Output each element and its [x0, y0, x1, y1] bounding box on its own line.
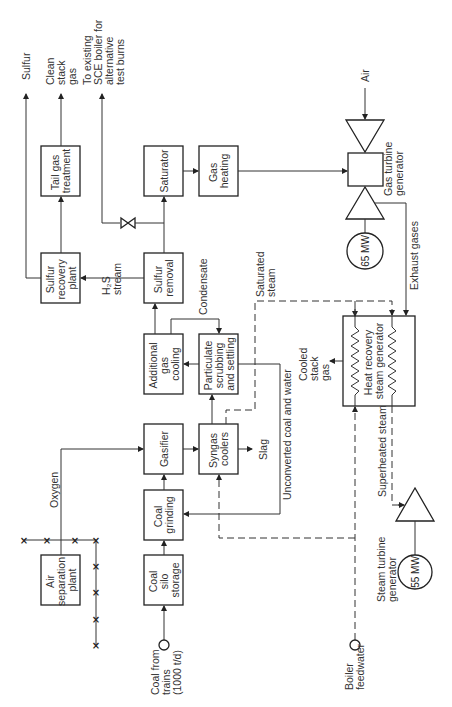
svg-text:×: ×	[92, 561, 100, 572]
box-heat-recovery-steam-generator: Heat recovery steam generator	[343, 316, 415, 406]
label-boiler-feedwater: Boiler feedwater	[343, 643, 366, 690]
box-gas-heating: Gas heating	[199, 146, 238, 196]
label-air: Air	[359, 69, 371, 82]
box-coal-silo-storage: Coal silo storage	[144, 555, 183, 605]
box-sulfur-removal: Sulfur removal	[144, 253, 183, 303]
box-saturator: Saturator	[144, 146, 183, 196]
svg-text:Sulfur removal: Sulfur removal	[152, 259, 175, 296]
svg-text:Particulate scrubbing: Particulate scrubbing and settling	[202, 337, 236, 391]
box-air-separation-plant: Air separation plant	[41, 554, 80, 606]
gas-turbine-generator: 65 MW	[346, 120, 384, 269]
label-clean-stack-gas: Clean stack gas	[44, 55, 78, 85]
label-oxygen: Oxygen	[48, 472, 60, 508]
svg-text:Gasifier: Gasifier	[158, 430, 170, 467]
svg-text:×: ×	[71, 535, 79, 546]
label-sce-boiler: To existing SCE boiler for alternative t…	[81, 17, 126, 85]
svg-text:55 MW: 55 MW	[410, 556, 421, 588]
label-steam-turbine-generator: Steam turbine generator	[375, 534, 398, 602]
svg-text:×: ×	[92, 640, 100, 651]
svg-text:×: ×	[20, 535, 28, 546]
svg-text:Saturator: Saturator	[158, 149, 170, 193]
valve-icon	[121, 218, 135, 228]
box-gasifier: Gasifier	[144, 424, 183, 474]
box-syngas-coolers: Syngas coolers	[199, 424, 238, 474]
svg-text:Syngas coolers: Syngas coolers	[207, 430, 230, 468]
label-h2s-stream: H₂S stream	[100, 263, 123, 295]
svg-text:×: ×	[43, 535, 51, 546]
svg-text:×: ×	[92, 614, 100, 625]
process-flow-diagram: Tail gas treatment Saturator Gas heating…	[0, 0, 452, 707]
label-cooled-stack-gas: Cooled stack gas	[297, 345, 331, 381]
label-coal-from-trains: Coal from trains (1000 t/d)	[149, 647, 183, 695]
label-exhaust-gases: Exhaust gases	[408, 221, 420, 290]
svg-text:65 MW: 65 MW	[360, 235, 371, 267]
label-condensate: Condensate	[197, 258, 209, 315]
svg-text:×: ×	[92, 587, 100, 598]
box-tail-gas-treatment: Tail gas treatment	[41, 146, 80, 196]
box-particulate-scrubbing: Particulate scrubbing and settling	[199, 334, 238, 394]
label-slag: Slag	[257, 439, 269, 460]
label-gas-turbine-generator: Gas turbine generator	[382, 139, 405, 196]
box-sulfur-recovery-plant: Sulfur recovery plant	[41, 253, 80, 303]
label-unconverted-coal-water: Unconverted coal and water	[281, 369, 293, 500]
box-coal-grinding: Coal grinding	[144, 490, 183, 540]
label-sulfur: Sulfur	[20, 52, 32, 80]
svg-text:×: ×	[92, 535, 100, 546]
steam-turbine-generator: 55 MW	[396, 488, 434, 589]
compressor-triangle-icon	[346, 120, 384, 152]
box-additional-gas-cooling: Additional gas cooling	[144, 334, 183, 394]
label-saturated-steam: Saturated steam	[254, 249, 277, 297]
label-superheated-steam: Superheated steam	[376, 405, 388, 497]
svg-text:Heat recovery steam gene: Heat recovery steam generator	[362, 322, 385, 399]
svg-text:Tail gas treatment: Tail gas treatment	[49, 149, 72, 193]
